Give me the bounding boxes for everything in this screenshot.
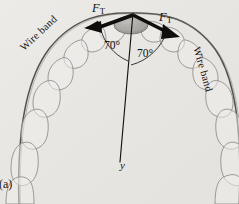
force-label-right-symbol: F	[159, 10, 167, 24]
orthodontic-wire-band-figure: FT FT 70° 70° Wire band Wire band y (a)	[0, 0, 239, 204]
angle-label-left: 70°	[104, 40, 120, 52]
force-label-left: FT	[92, 2, 105, 15]
force-label-right: FT	[159, 11, 172, 24]
y-axis-label: y	[120, 160, 125, 171]
panel-label: (a)	[0, 178, 12, 190]
force-label-left-symbol: F	[92, 1, 100, 15]
angle-label-right: 70°	[137, 48, 153, 60]
force-label-left-subscript: T	[100, 6, 105, 16]
force-label-right-subscript: T	[167, 15, 172, 25]
